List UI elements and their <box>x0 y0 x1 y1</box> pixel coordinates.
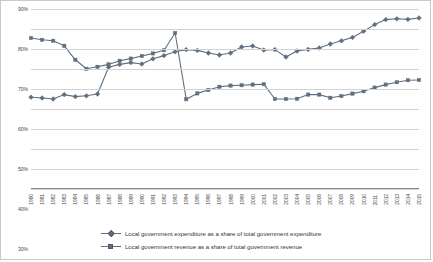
data-point-marker <box>340 94 343 97</box>
data-point-marker <box>196 92 199 95</box>
x-axis-tick-label: 2001 <box>259 191 269 209</box>
data-point-marker <box>151 56 156 61</box>
x-axis-tick-text: 1992 <box>161 194 167 205</box>
x-axis-tick-text: 1997 <box>216 194 222 205</box>
x-axis-tick-label: 2010 <box>359 191 369 209</box>
x-axis-tick-text: 2013 <box>394 194 400 205</box>
x-axis-tick-text: 2015 <box>416 194 422 205</box>
data-point-marker <box>51 97 56 102</box>
x-axis-tick-label: 1982 <box>48 191 58 209</box>
data-point-marker <box>284 97 287 100</box>
data-point-marker <box>406 79 409 82</box>
data-point-marker <box>218 85 221 88</box>
x-axis-tick-label: 2000 <box>248 191 258 209</box>
x-axis-tick-text: 1991 <box>150 194 156 205</box>
data-point-marker <box>29 95 34 100</box>
gridline: 70% <box>31 49 419 50</box>
data-point-marker <box>139 62 144 67</box>
legend-label-revenue: Local government revenue as a share of t… <box>125 244 302 250</box>
data-point-marker <box>51 39 54 42</box>
x-axis-tick-label: 1990 <box>137 191 147 209</box>
x-axis-tick-label: 1981 <box>37 191 47 209</box>
data-point-marker <box>251 83 254 86</box>
x-axis-tick-text: 1987 <box>106 194 112 205</box>
data-point-marker <box>273 97 276 100</box>
data-point-marker <box>229 84 232 87</box>
y-axis-tick-label: 80% <box>18 46 28 52</box>
legend-marker-square-icon <box>101 243 121 251</box>
x-axis-tick-text: 1982 <box>50 194 56 205</box>
data-point-marker <box>84 93 89 98</box>
data-point-marker <box>63 44 66 47</box>
x-axis-tick-label: 1988 <box>115 191 125 209</box>
data-point-marker <box>40 38 43 41</box>
x-axis-tick-text: 2006 <box>316 194 322 205</box>
data-point-marker <box>162 53 167 58</box>
data-point-marker <box>95 92 100 97</box>
data-point-marker <box>107 63 110 66</box>
data-point-marker <box>140 54 143 57</box>
x-axis-tick-label: 1985 <box>81 191 91 209</box>
chart-container: 90%80%70%60%50%40%30%20%10%0% 1980198119… <box>0 0 431 260</box>
x-axis-tick-label: 1987 <box>104 191 114 209</box>
data-point-marker <box>173 31 176 34</box>
data-point-marker <box>40 96 45 101</box>
x-axis-tick-text: 1985 <box>83 194 89 205</box>
series-revenue <box>29 31 420 101</box>
data-point-marker <box>128 60 133 65</box>
data-point-marker <box>118 59 121 62</box>
x-axis-labels: 1980198119821983198419851986198719881989… <box>31 191 419 225</box>
legend-label-expenditure: Local government expenditure as a share … <box>125 231 321 237</box>
data-point-marker <box>329 96 332 99</box>
data-point-marker <box>339 38 344 43</box>
data-point-marker <box>206 51 211 56</box>
data-point-marker <box>318 93 321 96</box>
x-axis-tick-label: 2013 <box>392 191 402 209</box>
gridline: 30% <box>31 129 419 130</box>
data-point-marker <box>406 17 411 22</box>
gridline: 80% <box>31 29 419 30</box>
x-axis-tick-label: 1992 <box>159 191 169 209</box>
legend-item-revenue: Local government revenue as a share of t… <box>1 240 430 253</box>
x-axis-tick-text: 2014 <box>405 194 411 205</box>
data-point-marker <box>62 92 67 97</box>
data-point-marker <box>240 84 243 87</box>
data-point-marker <box>129 57 132 60</box>
x-axis-tick-label: 2014 <box>403 191 413 209</box>
data-point-marker <box>228 51 233 56</box>
x-axis-tick-text: 1983 <box>61 194 67 205</box>
x-axis-tick-label: 2006 <box>314 191 324 209</box>
data-point-marker <box>350 35 355 40</box>
x-axis-tick-text: 2001 <box>261 194 267 205</box>
x-axis-tick-label: 1998 <box>226 191 236 209</box>
x-axis-tick-label: 1995 <box>192 191 202 209</box>
data-point-marker <box>151 52 154 55</box>
data-point-marker <box>295 97 298 100</box>
x-axis-tick-label: 1997 <box>214 191 224 209</box>
x-axis-tick-label: 2005 <box>303 191 313 209</box>
x-axis-tick-label: 2011 <box>370 191 380 209</box>
x-axis-tick-label: 1986 <box>93 191 103 209</box>
x-axis-tick-label: 2008 <box>336 191 346 209</box>
data-point-marker <box>383 17 388 22</box>
data-point-marker <box>250 44 255 49</box>
data-point-marker <box>117 62 122 67</box>
x-axis-tick-text: 1990 <box>139 194 145 205</box>
x-axis-tick-text: 1984 <box>72 194 78 205</box>
y-axis-tick-label: 70% <box>18 86 28 92</box>
legend-item-expenditure: Local government expenditure as a share … <box>1 227 430 240</box>
data-point-marker <box>96 65 99 68</box>
x-axis-tick-text: 2007 <box>327 194 333 205</box>
data-point-marker <box>185 98 188 101</box>
x-axis-tick-text: 2004 <box>294 194 300 205</box>
x-axis-tick-label: 2004 <box>292 191 302 209</box>
data-point-marker <box>372 22 377 27</box>
x-axis-tick-label: 2012 <box>381 191 391 209</box>
y-axis-tick-label: 90% <box>18 6 28 12</box>
data-point-marker <box>74 58 77 61</box>
x-axis-tick-text: 1993 <box>172 194 178 205</box>
x-axis-tick-label: 1980 <box>26 191 36 209</box>
x-axis-tick-label: 2002 <box>270 191 280 209</box>
x-axis-tick-text: 2002 <box>272 194 278 205</box>
gridline: 40% <box>31 109 419 110</box>
